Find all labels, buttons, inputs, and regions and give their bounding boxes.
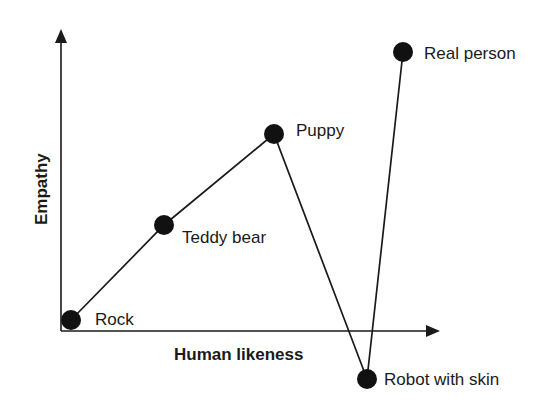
y-axis-title: Empathy bbox=[33, 153, 50, 225]
point-real-person bbox=[393, 42, 413, 62]
label-teddy-bear: Teddy bear bbox=[182, 229, 266, 246]
point-puppy bbox=[264, 124, 284, 144]
x-axis-title: Human likeness bbox=[174, 346, 303, 363]
point-rock bbox=[61, 310, 81, 330]
y-axis-arrow-icon bbox=[55, 29, 67, 43]
x-axis-arrow-icon bbox=[426, 325, 440, 337]
point-teddy-bear bbox=[154, 215, 174, 235]
point-robot-with-skin bbox=[357, 369, 377, 389]
label-puppy: Puppy bbox=[296, 122, 344, 139]
label-real-person: Real person bbox=[424, 45, 516, 62]
empathy-curve bbox=[71, 52, 403, 379]
label-rock: Rock bbox=[95, 311, 134, 328]
label-robot-with-skin: Robot with skin bbox=[384, 371, 499, 388]
